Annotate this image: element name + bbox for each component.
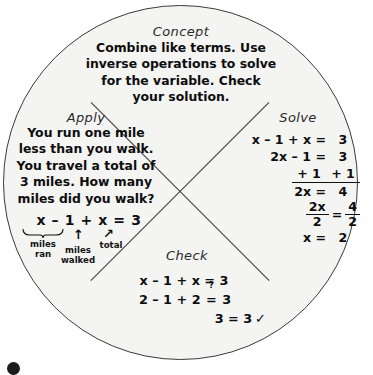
solve-row-1: x – 1 + x = 3: [228, 131, 360, 148]
solve-heading: Solve: [236, 110, 360, 125]
apply-line-2: less than you walk.: [2, 141, 170, 157]
annotation-miles-ran-line-2: ran: [35, 249, 51, 259]
annotation-miles-ran-line-1: miles: [30, 239, 56, 249]
apply-line-4: 3 miles. How many: [2, 174, 170, 190]
solve-row-4: 2x = 4: [228, 183, 360, 200]
solve-work: x – 1 + x = 3 2x – 1 = 3 + 1 + 1 2x = 4 …: [228, 131, 360, 246]
solve-row-2-left: 2x – 1 =: [270, 148, 326, 165]
check-work: x – 1 + x = 3 2 – 1 + 2 ?= 3 3 = 3✓: [92, 271, 282, 328]
concept-heading: Concept: [60, 24, 302, 39]
solve-row-2: 2x – 1 = 3: [228, 148, 360, 165]
concept-line-1: Combine like terms. Use: [60, 40, 302, 56]
solve-row-5-left-denominator: 2: [310, 215, 325, 229]
quadrant-check: Check x – 1 + x = 3 2 – 1 + 2 ?= 3 3 = 3…: [92, 248, 282, 328]
check-heading: Check: [92, 248, 282, 263]
solve-row-5-right-numerator: 4: [345, 200, 360, 215]
solve-row-6-solution: x = 2: [228, 229, 360, 246]
quadrant-apply: Apply You run one mile less than you wal…: [2, 110, 170, 268]
check-row-2-prefix: 2 – 1 + 2: [139, 292, 205, 307]
solve-row-5-left-fraction: 2x 2: [306, 200, 329, 229]
solve-row-3-left: + 1: [292, 165, 326, 183]
annotation-miles-walked-line-2: walked: [61, 255, 95, 265]
check-row-2-suffix: 3: [218, 292, 231, 307]
solve-row-3-right: + 1: [326, 165, 360, 183]
quadrant-solve: Solve x – 1 + x = 3 2x – 1 = 3 + 1 + 1 2…: [228, 110, 360, 246]
concept-line-4: your solution.: [60, 89, 302, 105]
solve-row-4-right: 4: [326, 183, 360, 200]
check-row-2-relation: =: [206, 292, 217, 307]
check-row-3: 3 = 3✓: [92, 309, 282, 328]
solve-row-5-divide: 2x 2 = 4 2: [228, 200, 360, 229]
page-edge-artifact: [7, 362, 20, 375]
questioned-equals-icon: ?=: [205, 290, 218, 309]
apply-body: You run one mile less than you walk. You…: [2, 125, 170, 207]
check-row-2: 2 – 1 + 2 ?= 3: [92, 290, 282, 309]
solve-row-3-add-one: + 1 + 1: [228, 165, 360, 183]
solve-row-5-left-numerator: 2x: [306, 200, 329, 215]
concept-line-3: for the variable. Check: [60, 73, 302, 89]
apply-heading: Apply: [2, 110, 170, 125]
solve-row-5-right-denominator: 2: [345, 215, 360, 229]
solve-row-6-left: x =: [303, 229, 326, 246]
apply-equation: x – 1 + x = 3: [2, 212, 170, 228]
solve-row-1-right: 3: [326, 131, 360, 148]
solve-row-5-right-fraction: 4 2: [345, 200, 360, 229]
up-arrow-icon-walked: ↑: [73, 229, 84, 240]
question-mark-superscript: ?: [209, 282, 214, 290]
concept-line-2: inverse operations to solve: [60, 56, 302, 72]
apply-line-3: You travel a total of: [2, 158, 170, 174]
solve-row-6-right: 2: [326, 229, 360, 246]
check-row-1: x – 1 + x = 3: [92, 271, 282, 290]
underbrace-icon: [22, 229, 64, 238]
solve-row-2-right: 3: [326, 148, 360, 165]
solve-row-1-left: x – 1 + x =: [252, 131, 326, 148]
apply-line-5: miles did you walk?: [2, 191, 170, 207]
apply-line-1: You run one mile: [2, 125, 170, 141]
up-arrow-icon-total: ↗: [103, 228, 114, 239]
quadrant-concept: Concept Combine like terms. Use inverse …: [60, 24, 302, 106]
concept-body: Combine like terms. Use inverse operatio…: [60, 40, 302, 106]
solve-row-4-left: 2x =: [294, 183, 326, 200]
check-row-3-text: 3 = 3: [215, 311, 252, 326]
solve-row-5-equals: =: [329, 207, 346, 222]
checkmark-icon: ✓: [252, 311, 266, 326]
annotation-miles-walked-line-1: miles: [65, 245, 91, 255]
